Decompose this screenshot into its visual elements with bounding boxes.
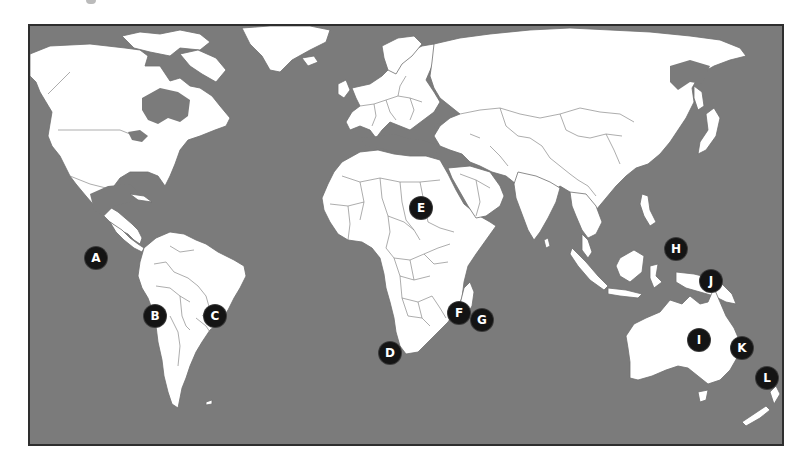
marker-i[interactable]: I bbox=[688, 329, 710, 351]
marker-j[interactable]: J bbox=[700, 270, 722, 292]
australia-landmass bbox=[626, 288, 740, 384]
sulawesi bbox=[650, 264, 662, 288]
greenland bbox=[242, 26, 330, 72]
baffin-island bbox=[180, 50, 226, 82]
japan bbox=[698, 108, 720, 154]
sakhalin bbox=[694, 86, 704, 110]
iceland bbox=[302, 56, 318, 66]
world-map bbox=[28, 24, 784, 446]
malay-peninsula bbox=[582, 234, 592, 258]
marker-g[interactable]: G bbox=[471, 309, 493, 331]
marker-f[interactable]: F bbox=[448, 302, 470, 324]
marker-c[interactable]: C bbox=[204, 305, 226, 327]
sri-lanka bbox=[544, 238, 550, 248]
borneo bbox=[616, 250, 644, 282]
java bbox=[608, 288, 642, 298]
british-isles bbox=[338, 80, 350, 98]
marker-k[interactable]: K bbox=[731, 337, 753, 359]
north-america-landmass bbox=[30, 44, 230, 244]
marker-a[interactable]: A bbox=[85, 247, 107, 269]
new-zealand-north bbox=[770, 386, 780, 404]
marker-d[interactable]: D bbox=[379, 342, 401, 364]
falkland-islands bbox=[206, 400, 212, 405]
marker-h[interactable]: H bbox=[665, 238, 687, 260]
world-map-svg bbox=[30, 26, 782, 444]
marker-e[interactable]: E bbox=[410, 197, 432, 219]
top-edge-artifact bbox=[86, 0, 96, 4]
marker-b[interactable]: B bbox=[144, 305, 166, 327]
tasmania bbox=[698, 390, 708, 402]
cuba bbox=[130, 194, 152, 202]
marker-l[interactable]: L bbox=[756, 367, 778, 389]
new-zealand bbox=[742, 406, 770, 426]
philippines bbox=[640, 194, 656, 226]
